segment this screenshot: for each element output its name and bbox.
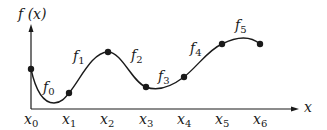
- segment-label-f5: f5: [234, 17, 247, 35]
- segment-label-f1: f1: [72, 48, 85, 66]
- node-label-x0: x0: [24, 111, 38, 129]
- node-point-x6: [257, 41, 263, 47]
- node-label-x5: x5: [215, 111, 229, 129]
- node-point-x1: [66, 90, 72, 96]
- node-point-x4: [181, 74, 187, 80]
- node-point-x5: [219, 41, 225, 47]
- piecewise-function-diagram: f (x) x x0 x1 x2 x3 x4 x5 x6 f0 f1 f2 f3…: [0, 0, 327, 130]
- node-label-x6: x6: [253, 111, 267, 129]
- segment-label-f4: f4: [189, 40, 202, 58]
- x-axis-arrow-icon: [291, 107, 299, 112]
- x-axis-label: x: [304, 99, 312, 115]
- node-label-x2: x2: [100, 111, 114, 129]
- segment-label-f2: f2: [130, 47, 143, 65]
- node-point-x0: [28, 66, 34, 72]
- segment-label-f0: f0: [42, 79, 55, 97]
- y-axis-arrow-icon: [29, 24, 34, 32]
- node-point-x3: [143, 84, 149, 90]
- segment-label-f3: f3: [157, 68, 170, 86]
- node-label-x3: x3: [139, 111, 153, 129]
- y-axis-label: f (x): [17, 6, 46, 22]
- function-curve: [31, 38, 260, 103]
- node-point-x2: [105, 49, 111, 55]
- node-label-x1: x1: [62, 111, 76, 129]
- node-label-x4: x4: [177, 111, 191, 129]
